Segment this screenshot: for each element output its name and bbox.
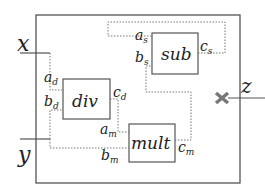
- wire-div-c-to-mult-a: [110, 99, 129, 132]
- div-port-b-label: bd: [44, 93, 59, 111]
- mult-block-label: mult: [131, 133, 171, 153]
- circuit-diagram: x y z div sub mult ad bd cd as bs cs am: [0, 0, 265, 188]
- mult-port-b-label: bm: [101, 147, 119, 165]
- sub-port-c-label: cs: [200, 38, 213, 56]
- wire-mult-c-to-sub-b: [146, 66, 191, 140]
- wire-y-to-mult-b: [50, 139, 129, 148]
- output-z-label: z: [240, 74, 252, 98]
- div-block-label: div: [72, 91, 98, 111]
- input-x-label: x: [17, 31, 30, 56]
- input-y-label: y: [17, 142, 31, 167]
- mult-port-a-label: am: [100, 121, 117, 139]
- div-port-c-label: cd: [113, 84, 127, 102]
- sub-port-a-label: as: [135, 27, 148, 45]
- mult-port-c-label: cm: [178, 139, 194, 157]
- unconnected-cross-icon: [216, 93, 228, 103]
- div-port-a-label: ad: [44, 69, 58, 87]
- sub-block-label: sub: [161, 44, 192, 64]
- sub-port-b-label: bs: [135, 49, 149, 67]
- wire-y-to-div-b: [50, 110, 63, 139]
